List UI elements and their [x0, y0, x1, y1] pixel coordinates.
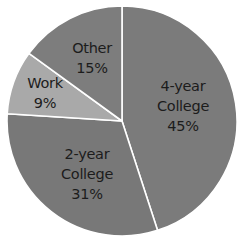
label-work: Work 9% — [20, 73, 70, 113]
label-2-year-college-pct: 31% — [52, 184, 122, 204]
label-work-line1: Work — [20, 73, 70, 93]
label-2-year-college: 2-year College 31% — [52, 144, 122, 204]
label-other-pct: 15% — [66, 58, 118, 78]
label-2-year-college-line1: 2-year — [52, 144, 122, 164]
label-2-year-college-line2: College — [52, 164, 122, 184]
label-other-line1: Other — [66, 38, 118, 58]
label-work-pct: 9% — [20, 93, 70, 113]
label-4-year-college: 4-year College 45% — [148, 76, 218, 136]
label-4-year-college-pct: 45% — [148, 116, 218, 136]
label-4-year-college-line2: College — [148, 96, 218, 116]
label-other: Other 15% — [66, 38, 118, 78]
label-4-year-college-line1: 4-year — [148, 76, 218, 96]
